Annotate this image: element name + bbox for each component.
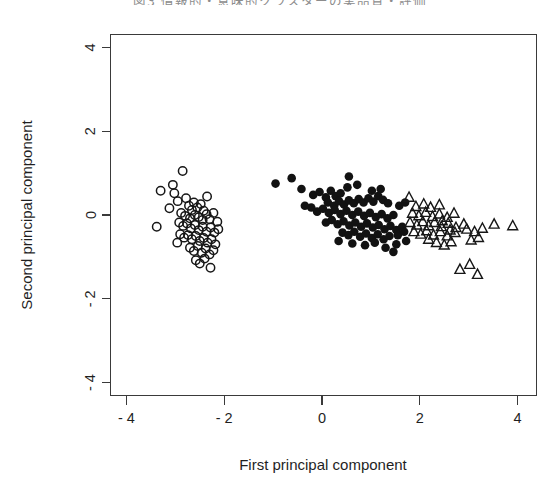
x-tick-label-1: - 2 xyxy=(216,410,233,426)
data-point-cluster-2-68 xyxy=(402,237,411,246)
data-point-cluster-3-35 xyxy=(446,236,456,245)
data-point-cluster-3-40 xyxy=(473,269,483,278)
data-point-cluster-2-22 xyxy=(384,199,393,208)
data-point-cluster-3-38 xyxy=(455,264,465,273)
x-axis-tick-labels: - 4- 2024 xyxy=(118,410,522,426)
data-point-cluster-2-70 xyxy=(353,181,362,190)
data-point-cluster-2-65 xyxy=(371,238,380,247)
data-point-cluster-3-37 xyxy=(474,232,484,241)
data-point-cluster-1-55 xyxy=(203,192,211,200)
y-axis-ticks xyxy=(102,47,111,382)
data-point-cluster-2-37 xyxy=(389,211,398,220)
scatter-plot: - 4- 2024 - 4- 2024 First principal comp… xyxy=(0,0,560,504)
data-point-cluster-2-66 xyxy=(381,243,390,252)
data-point-cluster-3-39 xyxy=(465,259,475,268)
data-point-cluster-1-54 xyxy=(169,181,177,189)
data-point-cluster-2-1 xyxy=(287,174,296,183)
series-open-circles xyxy=(153,167,223,272)
data-point-cluster-1-57 xyxy=(173,238,181,246)
data-point-cluster-2-72 xyxy=(376,185,385,194)
data-point-cluster-3-32 xyxy=(508,220,518,229)
x-tick-label-0: - 4 xyxy=(118,410,135,426)
y-tick-label-2: 0 xyxy=(83,211,99,219)
data-point-cluster-2-0 xyxy=(271,179,280,188)
data-point-cluster-1-0 xyxy=(178,167,186,175)
y-tick-label-4: 4 xyxy=(83,43,99,51)
y-axis-label: Second principal component xyxy=(18,120,35,310)
data-point-cluster-2-3 xyxy=(345,172,354,181)
series-filled-circles xyxy=(271,172,410,256)
y-tick-label-0: - 4 xyxy=(83,374,99,391)
data-point-cluster-2-73 xyxy=(301,201,310,210)
data-point-cluster-1-4 xyxy=(165,204,173,212)
data-point-cluster-2-75 xyxy=(400,227,409,236)
x-tick-label-2: 0 xyxy=(318,410,326,426)
data-point-cluster-1-1 xyxy=(156,186,164,194)
x-axis-ticks xyxy=(126,396,517,405)
y-axis-tick-labels: - 4- 2024 xyxy=(83,43,99,391)
y-tick-label-1: - 2 xyxy=(83,290,99,307)
data-point-cluster-2-62 xyxy=(385,232,394,241)
x-tick-label-3: 2 xyxy=(416,410,424,426)
data-point-cluster-3-0 xyxy=(404,192,414,201)
data-point-cluster-2-77 xyxy=(334,237,343,246)
y-tick-label-3: 2 xyxy=(83,127,99,135)
data-point-cluster-2-9 xyxy=(336,189,345,198)
data-point-cluster-2-64 xyxy=(361,241,370,250)
data-point-cluster-3-2 xyxy=(419,199,429,208)
figure-container: 図3 情報的・意味的クラスターの実品質・評価 - 4- 2024 - 4- 20… xyxy=(0,0,560,504)
x-tick-label-4: 4 xyxy=(514,410,522,426)
data-point-cluster-2-63 xyxy=(348,239,357,248)
data-point-cluster-2-2 xyxy=(297,185,306,194)
data-point-cluster-2-67 xyxy=(392,240,401,249)
x-axis-label: First principal component xyxy=(239,456,407,473)
series-open-triangles xyxy=(404,192,518,278)
data-point-cluster-2-71 xyxy=(368,186,377,195)
data-point-cluster-3-30 xyxy=(477,223,487,232)
data-point-cluster-1-2 xyxy=(170,189,178,197)
data-point-cluster-1-3 xyxy=(174,197,182,205)
data-point-cluster-2-69 xyxy=(343,183,352,192)
data-point-cluster-2-76 xyxy=(389,248,398,257)
plot-frame xyxy=(111,35,537,396)
data-point-cluster-1-53 xyxy=(206,264,214,272)
data-point-cluster-3-11 xyxy=(449,208,459,217)
data-point-cluster-1-21 xyxy=(153,223,161,231)
data-point-cluster-3-31 xyxy=(489,219,499,228)
